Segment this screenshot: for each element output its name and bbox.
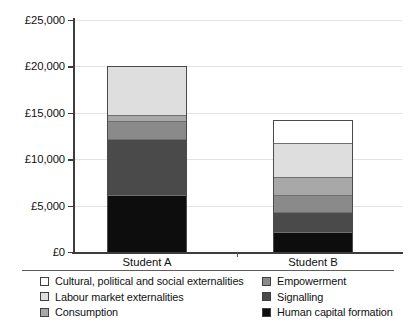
- stacked-bar-chart: £25,000 £20,000 £15,000 £10,000 £5,000 £…: [0, 0, 413, 328]
- bar-segment-cultural-political-and-social-externalities: [274, 121, 352, 143]
- ytick-label-25000: £25,000: [25, 14, 65, 26]
- legend-label: Empowerment: [277, 275, 346, 287]
- legend-swatch-icon: [40, 308, 49, 317]
- legend-label: Labour market externalities: [55, 291, 184, 303]
- legend-divider: [22, 270, 394, 271]
- bar-segment-consumption: [274, 177, 352, 194]
- bar-segment-signalling: [274, 212, 352, 231]
- legend-column-right: Empowerment Signalling Human capital for…: [262, 274, 393, 320]
- ytick-label-0: £0: [53, 246, 65, 258]
- legend-swatch-icon: [40, 277, 49, 286]
- gridline-25000: [73, 20, 402, 21]
- legend-item-labour-market-externalities[interactable]: Labour market externalities: [40, 290, 262, 305]
- legend-item-consumption[interactable]: Consumption: [40, 305, 262, 320]
- legend-item-human-capital-formation[interactable]: Human capital formation: [262, 305, 393, 320]
- bar-segment-empowerment: [274, 195, 352, 212]
- legend: Cultural, political and social externali…: [40, 274, 410, 320]
- legend-item-empowerment[interactable]: Empowerment: [262, 274, 393, 289]
- bar-segment-human-capital-formation: [274, 232, 352, 252]
- xtick-label-student-b: Student B: [288, 256, 338, 268]
- legend-label: Cultural, political and social externali…: [55, 275, 244, 287]
- bar-student-b[interactable]: [273, 120, 353, 252]
- legend-item-cultural-political-and-social-externalities[interactable]: Cultural, political and social externali…: [40, 274, 262, 289]
- y-axis-line: [73, 18, 75, 254]
- bar-segment-labour-market-externalities: [108, 67, 186, 116]
- legend-swatch-icon: [262, 277, 271, 286]
- bar-student-a[interactable]: [107, 66, 187, 253]
- bar-segment-signalling: [108, 139, 186, 195]
- xtick-label-student-a: Student A: [123, 256, 172, 268]
- bar-segment-empowerment: [108, 121, 186, 139]
- ytick-label-5000: £5,000: [31, 200, 65, 212]
- legend-item-signalling[interactable]: Signalling: [262, 290, 393, 305]
- ytick-label-15000: £15,000: [25, 107, 65, 119]
- legend-label: Human capital formation: [277, 306, 393, 318]
- bar-segment-labour-market-externalities: [274, 143, 352, 177]
- legend-column-left: Cultural, political and social externali…: [40, 274, 262, 320]
- plot-area: £25,000 £20,000 £15,000 £10,000 £5,000 £…: [73, 20, 402, 252]
- xtick-mark-midpoint: [237, 252, 238, 257]
- legend-label: Consumption: [55, 306, 118, 318]
- ytick-label-20000: £20,000: [25, 60, 65, 72]
- legend-swatch-icon: [40, 292, 49, 301]
- ytick-label-10000: £10,000: [25, 153, 65, 165]
- legend-swatch-icon: [262, 308, 271, 317]
- legend-label: Signalling: [277, 291, 323, 303]
- bar-segment-human-capital-formation: [108, 195, 186, 252]
- legend-swatch-icon: [262, 292, 271, 301]
